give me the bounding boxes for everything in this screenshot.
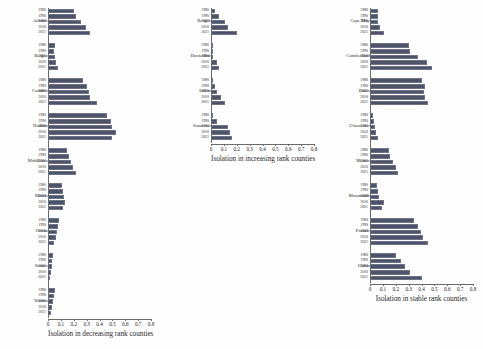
bar-group-monmouth: Monmouth19801990200020102021 — [322, 183, 483, 211]
plot-area-decreasing: Atlantic19801990200020102021Bergen198019… — [0, 8, 161, 308]
bar-group-essex: Essex19801990200020102021 — [322, 78, 483, 106]
bar-row: 2021 — [161, 135, 322, 141]
x-tick-label: 0 — [369, 287, 372, 292]
panel-increasing-rank: Bergen19801990200020102021Hunterdon19801… — [161, 0, 322, 349]
bar-row: 2021 — [322, 205, 483, 211]
bar — [370, 90, 424, 95]
bar-row: 2021 — [0, 205, 161, 211]
bar-row: 2021 — [322, 240, 483, 246]
group-spacer — [161, 106, 322, 113]
bar-group-somerset: Somerset19801990200020102021 — [161, 113, 322, 141]
bar-row: 2021 — [322, 100, 483, 106]
group-spacer — [0, 211, 161, 218]
bar-group-mercer: Mercer19801990200020102021 — [322, 148, 483, 176]
bar — [48, 130, 116, 135]
bar — [370, 78, 422, 83]
bar-row: 2021 — [0, 240, 161, 246]
bar — [48, 14, 76, 19]
year-tick-label: 2021 — [0, 310, 48, 316]
x-axis-title: Isolation in increasing rank counties — [211, 156, 314, 163]
bar-row: 2021 — [0, 310, 161, 316]
bar — [48, 241, 54, 246]
bar — [211, 66, 219, 71]
x-tick-label: 0.5 — [109, 322, 115, 327]
group-spacer — [322, 141, 483, 148]
group-spacer — [0, 141, 161, 148]
bar — [48, 20, 81, 25]
bar — [370, 195, 379, 200]
bar — [211, 119, 217, 124]
bar — [48, 171, 76, 176]
x-axis: 00.10.20.30.40.50.60.70.8Isolation in in… — [211, 144, 314, 160]
bar — [48, 294, 54, 299]
x-axis-title: Isolation in stable rank counties — [370, 296, 473, 303]
bar — [48, 113, 107, 118]
bar — [48, 299, 53, 304]
bar — [48, 200, 65, 205]
bar-group-gloucester: Gloucester19801990200020102021 — [322, 113, 483, 141]
bar — [48, 119, 111, 124]
bar-group-list: Cape May19801990200020102021Cumberland19… — [322, 8, 483, 281]
year-tick-label: 2021 — [0, 275, 48, 281]
group-spacer — [0, 246, 161, 253]
bar — [211, 31, 237, 36]
bar — [370, 95, 425, 100]
bar — [370, 101, 428, 106]
year-tick-label: 2021 — [0, 65, 48, 71]
bar-group-list: Bergen19801990200020102021Hunterdon19801… — [161, 8, 322, 141]
bar-row: 2021 — [322, 275, 483, 281]
x-tick-label: 0.2 — [71, 322, 77, 327]
x-tick-label: 0.5 — [272, 147, 278, 152]
bar — [48, 125, 112, 130]
bar — [211, 14, 219, 19]
year-tick-label: 2021 — [322, 30, 370, 36]
bar — [370, 9, 378, 14]
plot-area-increasing: Bergen19801990200020102021Hunterdon19801… — [161, 8, 322, 308]
bar — [211, 20, 225, 25]
group-spacer — [0, 36, 161, 43]
group-spacer — [0, 176, 161, 183]
bar-group-union: Union19801990200020102021 — [322, 253, 483, 281]
bar — [370, 125, 375, 130]
bar-group-atlantic: Atlantic19801990200020102021 — [0, 8, 161, 36]
bar — [48, 224, 58, 229]
year-tick-label: 2021 — [322, 65, 370, 71]
year-tick-label: 2021 — [161, 100, 211, 106]
group-spacer — [322, 211, 483, 218]
bar-row: 2021 — [322, 65, 483, 71]
panel-stable-rank: Cape May19801990200020102021Cumberland19… — [322, 0, 483, 349]
bar — [211, 136, 232, 141]
x-tick-label: 0.7 — [457, 287, 463, 292]
bar — [48, 165, 73, 170]
bar-row: 2021 — [322, 135, 483, 141]
bar-group-sussex: Sussex19801990200020102021 — [0, 253, 161, 281]
bar-group-list: Atlantic19801990200020102021Bergen198019… — [0, 8, 161, 316]
bar — [48, 195, 64, 200]
x-tick-label: 0.4 — [96, 322, 102, 327]
group-spacer — [0, 106, 161, 113]
bar — [370, 49, 410, 54]
bar — [370, 84, 425, 89]
bar-row: 2021 — [0, 30, 161, 36]
bar — [48, 235, 56, 240]
x-tick-label: 0.6 — [285, 147, 291, 152]
bar — [48, 66, 58, 71]
bar-group-warren: Warren19801990200020102021 — [0, 288, 161, 316]
group-spacer — [322, 36, 483, 43]
bar — [370, 253, 396, 258]
bar — [370, 154, 390, 159]
bar — [48, 31, 90, 36]
bar — [48, 288, 55, 293]
bar-row: 2021 — [161, 65, 322, 71]
bar — [370, 60, 427, 65]
bar-group-cumberland: Cumberland19801990200020102021 — [322, 43, 483, 71]
bar — [48, 189, 63, 194]
bar — [48, 101, 97, 106]
year-tick-label: 2021 — [0, 240, 48, 246]
year-tick-label: 2021 — [0, 100, 48, 106]
bar-row: 2021 — [0, 100, 161, 106]
bar-group-hunterdon: Hunterdon19801990200020102021 — [161, 43, 322, 71]
bar — [48, 148, 67, 153]
x-tick-label: 0.1 — [380, 287, 386, 292]
bar — [48, 206, 63, 211]
